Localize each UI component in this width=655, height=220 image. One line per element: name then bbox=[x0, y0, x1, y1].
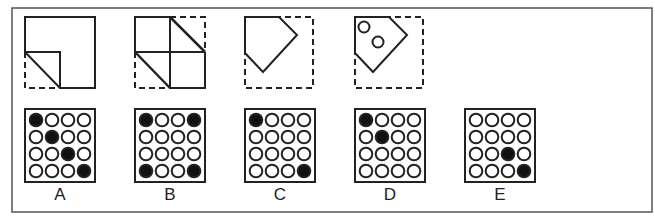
filled-hole bbox=[360, 114, 373, 127]
filled-hole bbox=[188, 114, 201, 127]
filled-hole bbox=[78, 165, 91, 178]
empty-hole bbox=[30, 131, 43, 144]
empty-hole bbox=[298, 114, 311, 127]
empty-hole bbox=[188, 148, 201, 161]
empty-hole bbox=[46, 165, 59, 178]
empty-hole bbox=[156, 131, 169, 144]
option-label-a[interactable]: A bbox=[25, 185, 95, 205]
empty-hole bbox=[266, 165, 279, 178]
option-d[interactable] bbox=[355, 109, 425, 182]
empty-hole bbox=[172, 131, 185, 144]
filled-hole bbox=[30, 114, 43, 127]
empty-hole bbox=[392, 114, 405, 127]
empty-hole bbox=[172, 165, 185, 178]
empty-hole bbox=[62, 114, 75, 127]
empty-hole bbox=[502, 114, 515, 127]
option-e[interactable] bbox=[465, 109, 535, 182]
empty-hole bbox=[250, 131, 263, 144]
empty-hole bbox=[266, 148, 279, 161]
empty-hole bbox=[250, 148, 263, 161]
empty-hole bbox=[30, 148, 43, 161]
empty-hole bbox=[78, 114, 91, 127]
empty-hole bbox=[140, 148, 153, 161]
filled-hole bbox=[46, 131, 59, 144]
empty-hole bbox=[502, 165, 515, 178]
empty-hole bbox=[408, 114, 421, 127]
empty-hole bbox=[298, 131, 311, 144]
empty-hole bbox=[376, 165, 389, 178]
option-label-e[interactable]: E bbox=[465, 185, 535, 205]
outer-frame bbox=[12, 8, 652, 212]
empty-hole bbox=[392, 148, 405, 161]
empty-hole bbox=[156, 165, 169, 178]
empty-hole bbox=[282, 114, 295, 127]
empty-hole bbox=[266, 114, 279, 127]
empty-hole bbox=[408, 148, 421, 161]
option-a[interactable] bbox=[25, 109, 95, 182]
fold-step-3 bbox=[245, 17, 313, 88]
empty-hole bbox=[360, 148, 373, 161]
empty-hole bbox=[376, 148, 389, 161]
option-label-c[interactable]: C bbox=[245, 185, 315, 205]
filled-hole bbox=[502, 148, 515, 161]
empty-hole bbox=[392, 131, 405, 144]
filled-hole bbox=[250, 114, 263, 127]
empty-hole bbox=[156, 148, 169, 161]
empty-hole bbox=[156, 114, 169, 127]
fold-step-2 bbox=[135, 17, 205, 88]
option-label-d[interactable]: D bbox=[355, 185, 425, 205]
empty-hole bbox=[282, 131, 295, 144]
empty-hole bbox=[188, 131, 201, 144]
empty-hole bbox=[282, 148, 295, 161]
empty-hole bbox=[518, 131, 531, 144]
empty-hole bbox=[486, 131, 499, 144]
filled-hole bbox=[376, 131, 389, 144]
filled-hole bbox=[140, 165, 153, 178]
empty-hole bbox=[470, 114, 483, 127]
empty-hole bbox=[282, 165, 295, 178]
empty-hole bbox=[266, 131, 279, 144]
empty-hole bbox=[486, 165, 499, 178]
empty-hole bbox=[486, 114, 499, 127]
empty-hole bbox=[360, 165, 373, 178]
empty-hole bbox=[46, 114, 59, 127]
fold-step-4 bbox=[355, 17, 423, 88]
empty-hole bbox=[62, 131, 75, 144]
option-label-b[interactable]: B bbox=[135, 185, 205, 205]
filled-hole bbox=[140, 114, 153, 127]
empty-hole bbox=[408, 131, 421, 144]
empty-hole bbox=[172, 148, 185, 161]
empty-hole bbox=[518, 148, 531, 161]
empty-hole bbox=[502, 131, 515, 144]
empty-hole bbox=[470, 131, 483, 144]
option-b[interactable] bbox=[135, 109, 205, 182]
empty-hole bbox=[518, 114, 531, 127]
empty-hole bbox=[172, 114, 185, 127]
empty-hole bbox=[360, 131, 373, 144]
empty-hole bbox=[298, 148, 311, 161]
empty-hole bbox=[250, 165, 263, 178]
filled-hole bbox=[518, 165, 531, 178]
empty-hole bbox=[78, 148, 91, 161]
puzzle-canvas bbox=[0, 0, 655, 220]
empty-hole bbox=[62, 165, 75, 178]
empty-hole bbox=[486, 148, 499, 161]
fold-step-1 bbox=[25, 17, 95, 88]
empty-hole bbox=[376, 114, 389, 127]
filled-hole bbox=[62, 148, 75, 161]
empty-hole bbox=[78, 131, 91, 144]
empty-hole bbox=[470, 148, 483, 161]
filled-hole bbox=[188, 165, 201, 178]
empty-hole bbox=[470, 165, 483, 178]
empty-hole bbox=[30, 165, 43, 178]
empty-hole bbox=[46, 148, 59, 161]
filled-hole bbox=[298, 165, 311, 178]
empty-hole bbox=[392, 165, 405, 178]
option-c[interactable] bbox=[245, 109, 315, 182]
empty-hole bbox=[140, 131, 153, 144]
empty-hole bbox=[408, 165, 421, 178]
